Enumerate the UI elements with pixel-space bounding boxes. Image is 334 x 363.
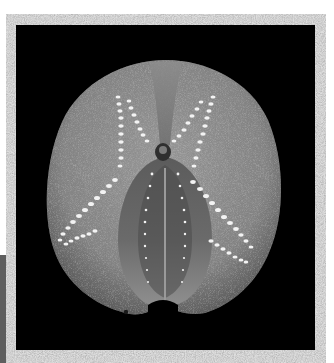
urchin-photo-svg <box>0 0 334 363</box>
urchin-photo <box>0 0 334 363</box>
urchin-test <box>47 60 281 318</box>
